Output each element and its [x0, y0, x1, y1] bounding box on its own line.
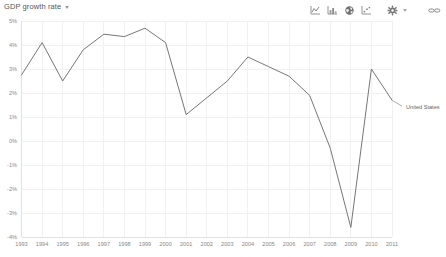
x-axis-tick-label: 2006 [283, 241, 295, 247]
x-axis-tick-label: 2005 [262, 241, 274, 247]
x-axis-tick-label: 1994 [36, 241, 48, 247]
x-axis-tick-label: 2003 [221, 241, 233, 247]
y-axis-tick-label: -2% [7, 186, 17, 192]
legend-label-united-states: United States [406, 104, 440, 110]
x-axis-tick-label: 2011 [386, 241, 398, 247]
y-axis-tick-label: -4% [7, 234, 17, 240]
x-axis-tick-label: 1997 [98, 241, 110, 247]
x-axis-tick-label: 2010 [365, 241, 377, 247]
chart-plot-area: 5%4%3%2%1%0%-1%-2%-3%-4% 199319941995199… [0, 0, 446, 257]
y-axis-tick-label: 5% [9, 18, 17, 24]
y-axis-tick-label: 4% [9, 42, 17, 48]
x-axis-tick-label: 1999 [139, 241, 151, 247]
gdp-growth-line-chart[interactable]: 5%4%3%2%1%0%-1%-2%-3%-4% 199319941995199… [0, 0, 446, 257]
x-axis-tick-label: 2001 [180, 241, 192, 247]
y-axis-tick-label: 0% [9, 138, 17, 144]
x-axis-labels: 1993199419951996199719981999200020012002… [15, 241, 398, 247]
x-axis-tick-label: 1998 [118, 241, 130, 247]
x-axis-tick-label: 1996 [77, 241, 89, 247]
chart-gridlines [22, 21, 393, 237]
x-axis-tick-label: 2007 [303, 241, 315, 247]
x-axis-tick-label: 2002 [201, 241, 213, 247]
y-axis-tick-label: 1% [9, 114, 17, 120]
x-axis-tick-label: 1993 [15, 241, 27, 247]
x-axis-tick-label: 2004 [242, 241, 254, 247]
chart-legend: United States [392, 100, 440, 110]
y-axis-tick-label: 3% [9, 66, 17, 72]
x-axis-tick-label: 2009 [345, 241, 357, 247]
x-axis-tick-label: 1995 [56, 241, 68, 247]
x-axis-tick-label: 2000 [159, 241, 171, 247]
y-axis-tick-label: -1% [7, 162, 17, 168]
x-axis-tick-label: 2008 [324, 241, 336, 247]
y-axis-tick-label: 2% [9, 90, 17, 96]
legend-connector-line [392, 100, 402, 106]
y-axis-tick-label: -3% [7, 210, 17, 216]
y-axis-labels: 5%4%3%2%1%0%-1%-2%-3%-4% [7, 18, 17, 240]
